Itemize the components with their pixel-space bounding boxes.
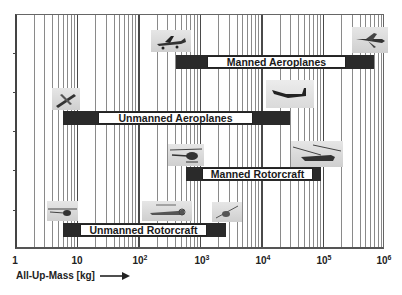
x-tick-label: 106 [376, 254, 391, 266]
bar-manned-aeroplanes: Manned Aeroplanes [176, 55, 374, 69]
airliner-photo [352, 27, 388, 53]
mini-rotor-uav-photo [47, 201, 78, 221]
y-tick [13, 170, 17, 171]
y-tick [13, 92, 17, 93]
heavy-helicopter-photo [291, 141, 343, 167]
large-rotor-uav-photo [212, 202, 242, 222]
x-tick-label: 102 [132, 254, 147, 266]
light-aircraft-photo [151, 30, 191, 52]
x-axis-title-text: All-Up-Mass [kg] [16, 270, 95, 281]
x-tick-label: 103 [194, 254, 209, 266]
small-uav-photo [52, 88, 80, 110]
y-tick [13, 210, 17, 211]
mass-range-chart: Manned Aeroplanes Unmanned Aeroplanes Ma… [0, 0, 402, 295]
x-axis-title: All-Up-Mass [kg] [16, 270, 130, 281]
bar-manned-rotorcraft: Manned Rotorcraft [186, 167, 321, 181]
x-tick-label: 104 [255, 254, 270, 266]
x-tick-label: 1 [12, 254, 18, 266]
y-tick [13, 131, 17, 132]
light-helicopter-photo [168, 144, 204, 166]
right-arrow-icon [100, 271, 130, 281]
x-tick-label: 10 [71, 254, 82, 266]
bar-label: Unmanned Rotorcraft [80, 224, 207, 236]
bar-unmanned-rotorcraft: Unmanned Rotorcraft [63, 223, 226, 237]
bar-label: Unmanned Aeroplanes [98, 112, 253, 124]
y-tick [13, 53, 17, 54]
bar-label: Manned Rotorcraft [202, 168, 313, 180]
bar-label: Manned Aeroplanes [207, 56, 346, 68]
x-tick-label: 105 [316, 254, 331, 266]
rotor-uav-photo [142, 201, 192, 221]
large-uav-photo [266, 80, 314, 108]
bar-unmanned-aeroplanes: Unmanned Aeroplanes [63, 111, 290, 125]
